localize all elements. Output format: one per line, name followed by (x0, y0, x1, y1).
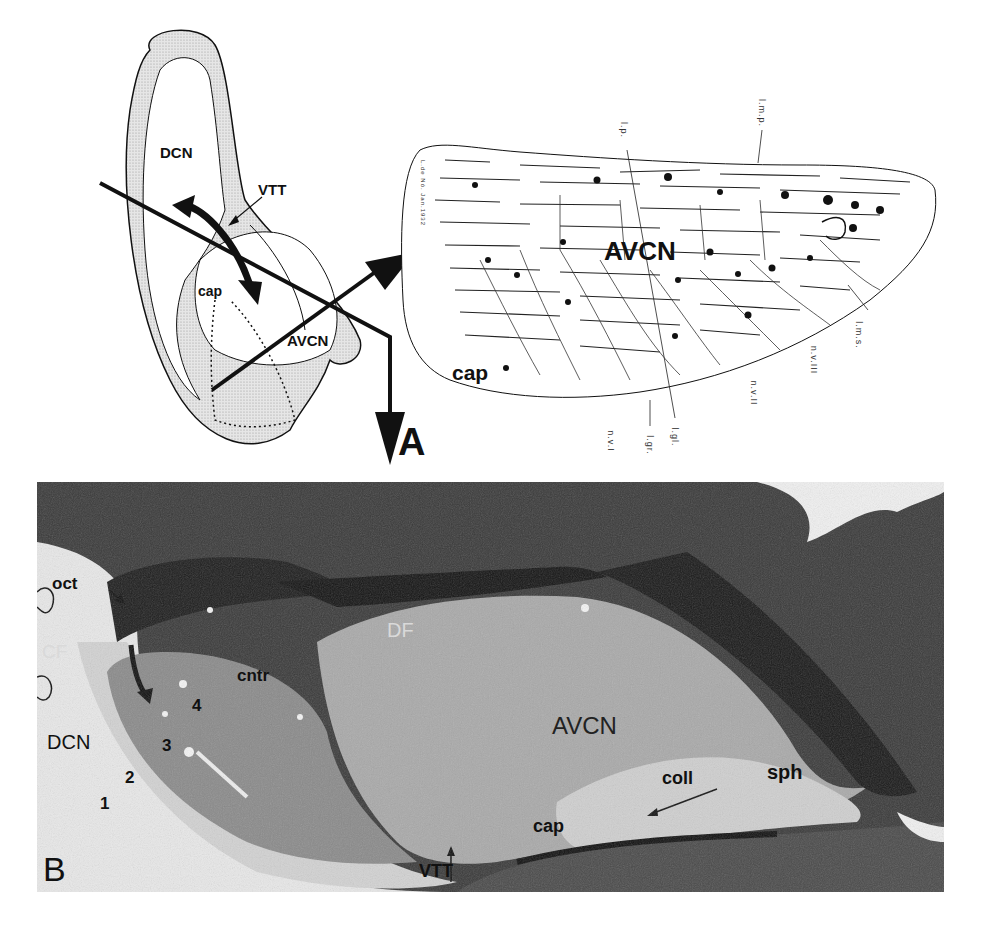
drawing-label-nvii: n.v.II (749, 381, 759, 406)
panel-a-illustration (0, 0, 981, 478)
panel-b-micrograph: oct CF DCN 1 2 3 4 cntr DF AVCN coll sph… (37, 482, 944, 892)
panel-a: DCN VTT cap AVCN AVCN cap l.p. l.m.p. l.… (0, 0, 981, 478)
avcn-drawing-outline (402, 145, 936, 397)
schematic-label-dcn: DCN (160, 145, 193, 160)
drawing-label-nviii: n.v.III (809, 346, 819, 374)
panel-a-letter: A (398, 423, 425, 461)
drawing-label-nvi: n.v.I (606, 430, 616, 451)
micrograph-label-cap: cap (533, 817, 564, 835)
micrograph-image (37, 482, 944, 892)
schematic-label-cap: cap (198, 284, 222, 298)
drawing-label-avcn: AVCN (604, 238, 676, 264)
schematic-label-vtt: VTT (258, 182, 286, 197)
drawing-label-lms: l.m.s. (854, 321, 864, 349)
schematic-label-avcn: AVCN (287, 333, 328, 348)
drawing-label-lgr: l.gr. (645, 435, 655, 455)
drawing-label-lgl: l.gl. (670, 427, 680, 446)
drawing-label-lmp: l.m.p. (757, 99, 767, 127)
micrograph-label-cf: CF (42, 642, 67, 661)
micrograph-layer-3: 3 (162, 737, 171, 754)
micrograph-label-avcn: AVCN (552, 714, 617, 738)
micrograph-label-vtt: VTT (419, 862, 453, 880)
micrograph-label-oct: oct (52, 575, 78, 592)
micrograph-label-dcn: DCN (47, 732, 90, 752)
micrograph-label-sph: sph (767, 762, 803, 782)
micrograph-layer-1: 1 (100, 795, 109, 812)
micrograph-label-cntr: cntr (237, 667, 269, 684)
panel-b-letter: B (43, 852, 66, 886)
drawing-signature: L.de Nó. Jan.1932 (420, 160, 426, 226)
drawing-label-cap: cap (452, 362, 488, 383)
micrograph-label-coll: coll (662, 769, 693, 787)
drawing-label-lp: l.p. (619, 122, 629, 138)
micrograph-layer-2: 2 (125, 769, 134, 786)
micrograph-label-df: DF (387, 620, 414, 640)
micrograph-layer-4: 4 (192, 697, 201, 714)
